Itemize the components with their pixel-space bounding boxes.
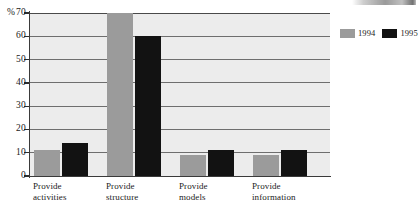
bar-1995-2 xyxy=(135,36,161,176)
gridline-70 xyxy=(29,13,330,14)
bar-1995-3 xyxy=(208,150,234,176)
legend-label-1994: 1994 xyxy=(358,29,375,38)
y-axis-label-10: 10 xyxy=(0,148,26,158)
legend-label-1995: 1995 xyxy=(400,29,417,38)
x-axis-line xyxy=(29,176,331,177)
y-axis-line xyxy=(29,11,30,178)
bar-1994-3 xyxy=(180,155,206,176)
bar-1995-1 xyxy=(62,143,88,176)
legend-entry-1995: 1995 xyxy=(382,29,417,38)
x-axis-category-label-1: Provide activities xyxy=(33,181,95,202)
y-axis-label-60: 60 xyxy=(0,31,26,41)
gridline-30 xyxy=(29,106,330,107)
x-axis-category-label-4: Provide information xyxy=(252,181,314,202)
gridline-40 xyxy=(29,82,330,83)
legend-entry-1994: 1994 xyxy=(340,29,375,38)
x-axis-category-label-3: Provide models xyxy=(179,181,241,202)
y-axis-label-50: 50 xyxy=(0,55,26,65)
bar-1994-1 xyxy=(34,150,60,176)
x-axis-category-label-2: Provide structure xyxy=(106,181,168,202)
bar-chart-figure: %706050403020100 Provide activitiesProvi… xyxy=(0,0,418,217)
y-axis-label-70: %70 xyxy=(0,8,26,18)
y-axis-label-40: 40 xyxy=(0,78,26,88)
bar-1995-4 xyxy=(281,150,307,176)
y-axis-value: 50 xyxy=(16,54,26,64)
gridline-60 xyxy=(29,36,330,37)
chart-legend: 19941995 xyxy=(340,29,418,38)
y-axis-label-0: 0 xyxy=(0,171,26,181)
y-axis-value: 30 xyxy=(16,100,26,110)
y-axis-value: 60 xyxy=(16,30,26,40)
legend-swatch-1995 xyxy=(382,29,397,38)
y-axis-value: 70 xyxy=(16,7,26,17)
bar-1994-2 xyxy=(107,13,133,176)
y-axis-value: 20 xyxy=(16,123,26,133)
y-axis-unit: % xyxy=(7,7,15,17)
gridline-50 xyxy=(29,59,330,60)
gridline-20 xyxy=(29,129,330,130)
y-axis-label-30: 30 xyxy=(0,101,26,111)
legend-swatch-1994 xyxy=(340,29,355,38)
y-axis-value: 10 xyxy=(16,147,26,157)
y-axis-value: 40 xyxy=(16,77,26,87)
y-axis-value: 0 xyxy=(21,170,26,180)
y-axis-label-20: 20 xyxy=(0,124,26,134)
bar-1994-4 xyxy=(253,155,279,176)
